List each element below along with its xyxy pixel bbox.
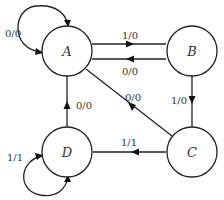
- state-label-B: B: [186, 44, 197, 59]
- arrowhead-C-D: [131, 149, 139, 156]
- edge-label-C-A: 0/0: [125, 92, 141, 103]
- edge-label-B-C: 1/0: [171, 95, 187, 106]
- edge-label-D-A: 0/0: [76, 100, 92, 111]
- state-A: A: [42, 26, 92, 76]
- arrowhead-D-A: [64, 101, 71, 109]
- arrowhead-A-B: [126, 41, 134, 48]
- edge-label-D-D: 1/1: [7, 152, 23, 163]
- state-diagram: 0/0 1/0 0/0 1/0 0/0 1/1 0/0 1/1 A B C D: [0, 0, 224, 200]
- state-label-D: D: [61, 145, 73, 160]
- edge-label-A-A: 0/0: [5, 28, 21, 39]
- arrowhead-B-A: [126, 56, 134, 63]
- state-D: D: [42, 127, 92, 177]
- state-B: B: [167, 26, 217, 76]
- arrowhead-C-A: [128, 102, 136, 111]
- edge-label-C-D: 1/1: [121, 137, 137, 148]
- state-C: C: [167, 127, 217, 177]
- edge-label-B-A: 0/0: [122, 66, 138, 77]
- arrowhead-B-C: [189, 96, 196, 104]
- state-label-A: A: [61, 44, 71, 59]
- state-label-C: C: [187, 145, 197, 160]
- edge-label-A-B: 1/0: [122, 30, 138, 41]
